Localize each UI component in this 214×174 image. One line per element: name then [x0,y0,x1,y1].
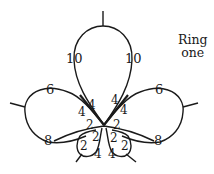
bottom-left-inner-count: 2 [92,130,100,144]
diagram-title: Ring one [178,33,207,59]
tatting-ring-diagram: 10 10 6 8 4 4 6 8 4 4 2 2 2 4 2 2 2 4 [0,0,214,174]
right-ring-picot [183,103,198,107]
top-ring-left-count: 10 [66,51,83,66]
left-ring-inner-top: 4 [88,98,96,112]
bottom-right-outer-count: 2 [113,118,121,132]
base-thread [54,126,154,141]
bottom-left-ring-picot [76,154,82,162]
bottom-right-bottom-count: 4 [108,147,116,161]
bottom-left-bottom-count: 4 [94,147,102,161]
left-ring-picot [10,103,25,107]
bottom-right-inner-count: 2 [110,131,118,145]
bottom-right-ring-picot [126,154,136,162]
left-ring-top-count: 6 [46,82,54,97]
top-ring-right-count: 10 [125,51,142,66]
right-ring-inner-bottom: 4 [120,103,128,117]
left-ring-bottom-count: 8 [44,133,52,148]
left-ring-inner-bottom: 4 [78,105,86,119]
title-line-2: one [178,46,207,59]
right-ring-inner-top: 4 [111,93,119,107]
right-ring-bottom-count: 8 [154,133,162,148]
right-ring-top-count: 6 [155,82,163,97]
bottom-right-side-count: 2 [121,139,129,153]
bottom-left-side-count: 2 [80,139,88,153]
